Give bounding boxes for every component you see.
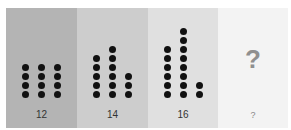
dot-icon — [125, 73, 132, 80]
dot-icon — [196, 82, 203, 89]
dot-icon — [164, 64, 171, 71]
dot-icon — [54, 64, 61, 71]
dot-icon — [180, 64, 187, 71]
panel-label: 14 — [77, 109, 148, 120]
dot-icon — [180, 73, 187, 80]
dot-icon — [125, 82, 132, 89]
dot-icon — [164, 73, 171, 80]
dot-icon — [164, 55, 171, 62]
dot-icon — [93, 64, 100, 71]
dot-icon — [38, 73, 45, 80]
dot-column — [125, 73, 132, 98]
dot-icon — [93, 82, 100, 89]
dot-column — [54, 64, 61, 98]
dot-icon — [109, 82, 116, 89]
dot-icon — [164, 91, 171, 98]
dot-icon — [125, 91, 132, 98]
dot-icon — [109, 73, 116, 80]
sequence-puzzle: 12 14 16 ? ? — [6, 8, 288, 128]
dot-icon — [109, 91, 116, 98]
dot-icon — [164, 82, 171, 89]
panel-label: 12 — [6, 109, 77, 120]
dot-icon — [180, 91, 187, 98]
dot-icon — [22, 82, 29, 89]
dot-icon — [38, 64, 45, 71]
panel-label: 16 — [148, 109, 218, 120]
dot-icon — [180, 82, 187, 89]
dot-icon — [180, 55, 187, 62]
dot-icon — [180, 28, 187, 35]
dot-group — [148, 28, 218, 98]
dot-icon — [180, 37, 187, 44]
dot-icon — [93, 55, 100, 62]
panel-14: 14 — [77, 8, 148, 128]
dot-icon — [180, 46, 187, 53]
dot-column — [38, 64, 45, 98]
dot-icon — [38, 82, 45, 89]
dot-column — [196, 82, 203, 98]
dot-icon — [38, 91, 45, 98]
question-mark-icon: ? — [218, 44, 288, 75]
dot-group — [77, 46, 148, 98]
dot-icon — [93, 73, 100, 80]
dot-icon — [164, 46, 171, 53]
dot-icon — [22, 73, 29, 80]
dot-column — [109, 46, 116, 98]
dot-icon — [22, 91, 29, 98]
panel-unknown: ? ? — [218, 8, 288, 128]
dot-column — [93, 55, 100, 98]
dot-column — [180, 28, 187, 98]
dot-icon — [109, 46, 116, 53]
dot-column — [22, 64, 29, 98]
dot-icon — [22, 64, 29, 71]
dot-icon — [54, 91, 61, 98]
dot-column — [164, 46, 171, 98]
dot-group — [6, 64, 77, 98]
dot-icon — [54, 82, 61, 89]
panel-16: 16 — [148, 8, 218, 128]
dot-icon — [109, 64, 116, 71]
panel-12: 12 — [6, 8, 77, 128]
dot-icon — [93, 91, 100, 98]
dot-icon — [196, 91, 203, 98]
panel-label: ? — [218, 110, 288, 120]
dot-icon — [109, 55, 116, 62]
dot-icon — [54, 73, 61, 80]
